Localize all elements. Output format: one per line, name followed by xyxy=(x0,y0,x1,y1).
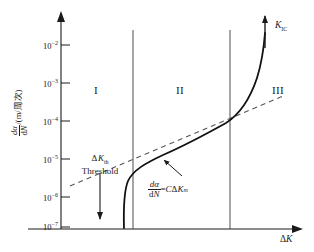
y-tick-label: 10−6 xyxy=(26,192,58,202)
paris-leader-arrow xyxy=(164,160,182,176)
y-axis-fraction: dα dN xyxy=(10,125,28,137)
x-axis-title: ΔK xyxy=(280,234,292,244)
y-tick-marks xyxy=(61,45,70,227)
crack-growth-curve xyxy=(124,33,265,228)
kic-label: KIC xyxy=(275,20,287,32)
region-label-2: II xyxy=(176,84,184,96)
y-tick-label: 10−2 xyxy=(26,40,58,50)
y-axis-denominator: dN xyxy=(20,125,29,137)
region-label-3: III xyxy=(272,84,284,96)
y-tick-label: 10−7 xyxy=(26,221,58,231)
y-tick-label: 10−3 xyxy=(26,78,58,88)
y-tick-label: 10−4 xyxy=(26,116,58,126)
threshold-symbol: Δ Kth xyxy=(62,153,138,166)
paris-law-equation: dα dN = C Δ Km xyxy=(148,180,188,199)
threshold-annotation: Δ Kth Threshold xyxy=(62,153,138,178)
paris-exponent: m xyxy=(183,187,187,193)
x-axis xyxy=(28,225,303,233)
threshold-word: Threshold xyxy=(62,166,138,177)
y-axis xyxy=(57,11,65,229)
y-tick-label: 10−5 xyxy=(26,154,58,164)
figure-canvas: 10−2 10−3 10−4 10−5 10−6 10−7 dα dN /(m/… xyxy=(0,0,314,252)
paris-fraction: dα dN xyxy=(148,180,161,199)
paris-denominator: dN xyxy=(148,190,161,199)
x-axis-arrow xyxy=(292,225,303,233)
region-label-1: I xyxy=(94,84,98,96)
y-axis-title: dα dN /(m/周次) xyxy=(10,58,28,168)
y-axis-arrow xyxy=(57,11,65,22)
x-axis-symbol: K xyxy=(286,234,292,244)
y-axis-units: /(m/周次) xyxy=(13,90,23,125)
